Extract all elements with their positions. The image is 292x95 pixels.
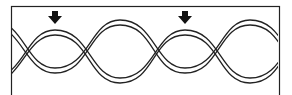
twisted-strands-diagram: [0, 0, 292, 95]
